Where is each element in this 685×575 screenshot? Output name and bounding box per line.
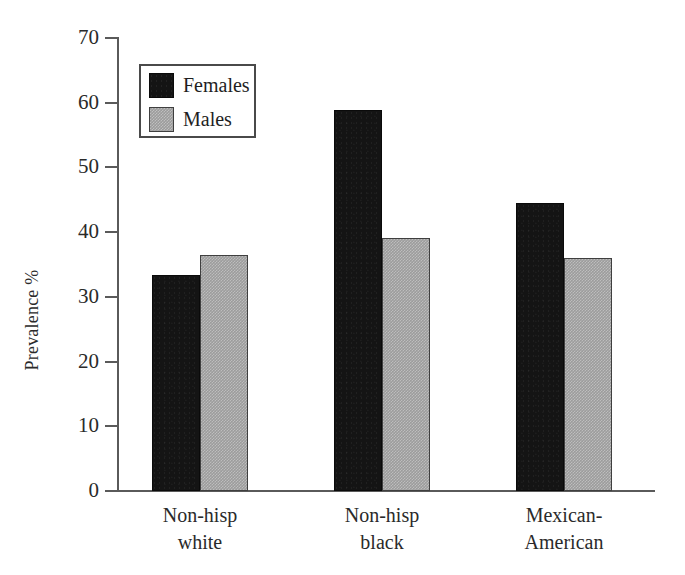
y-tick-label-40: 40 — [43, 221, 99, 242]
y-tick-50 — [105, 166, 117, 168]
x-axis-label-line: American — [454, 529, 674, 556]
y-tick-label-0: 0 — [43, 480, 99, 501]
bar-females-non-hisp-white — [152, 275, 200, 491]
y-tick-label-wrap: 20 — [37, 362, 99, 363]
y-tick-label-wrap: 0 — [37, 491, 99, 492]
legend-swatch-females — [149, 73, 174, 98]
bar-females-non-hisp-black — [334, 110, 382, 491]
legend-swatch-males — [149, 107, 174, 132]
bar-females-mexican-american — [516, 203, 564, 491]
y-tick-label-wrap: 40 — [37, 232, 99, 233]
y-tick-label-wrap: 70 — [37, 38, 99, 39]
y-tick-label-60: 60 — [43, 92, 99, 113]
legend-label-females: Females — [183, 74, 250, 97]
legend-label-males: Males — [183, 108, 232, 131]
bar-males-non-hisp-black — [382, 238, 430, 491]
x-axis-label-line: Mexican- — [454, 502, 674, 529]
y-tick-label-wrap: 10 — [37, 426, 99, 427]
bar-males-mexican-american — [564, 258, 612, 491]
y-tick-label-10: 10 — [43, 415, 99, 436]
y-tick-10 — [105, 425, 117, 427]
y-tick-70 — [105, 37, 117, 39]
legend-item-males: Males — [149, 105, 232, 133]
y-tick-label-wrap: 30 — [37, 297, 99, 298]
bar-chart: Prevalence % 010203040506070 Non-hispwhi… — [0, 0, 685, 575]
y-tick-label-wrap: 50 — [37, 167, 99, 168]
y-tick-40 — [105, 231, 117, 233]
y-tick-label-70: 70 — [43, 27, 99, 48]
y-tick-label-30: 30 — [43, 286, 99, 307]
bar-males-non-hisp-white — [200, 255, 248, 491]
y-tick-label-wrap: 60 — [37, 103, 99, 104]
legend-item-females: Females — [149, 71, 250, 99]
y-tick-60 — [105, 102, 117, 104]
y-tick-20 — [105, 361, 117, 363]
x-axis-label-3: Mexican-American — [454, 502, 674, 556]
legend: Females Males — [139, 64, 256, 138]
y-tick-label-50: 50 — [43, 156, 99, 177]
y-tick-label-20: 20 — [43, 351, 99, 372]
y-tick-30 — [105, 296, 117, 298]
y-tick-0 — [105, 490, 117, 492]
